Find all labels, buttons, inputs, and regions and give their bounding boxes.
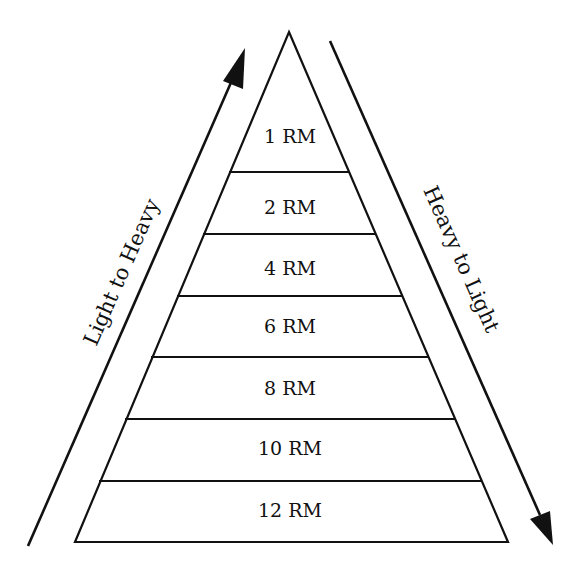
level-label-12rm: 12 RM [258,499,322,521]
right-arrow-label: Heavy to Light [419,182,505,336]
level-label-2rm: 2 RM [264,196,316,218]
level-label-10rm: 10 RM [258,437,322,459]
level-label-1rm: 1 RM [264,125,316,147]
level-label-8rm: 8 RM [264,377,316,399]
left-arrow-label: Light to Heavy [79,195,164,349]
pyramid-outline [75,32,508,542]
arrow-down-icon [330,41,553,545]
level-label-4rm: 4 RM [264,257,316,279]
rm-pyramid-diagram: 1 RM 2 RM 4 RM 6 RM 8 RM 10 RM 12 RM Lig… [0,0,579,572]
level-label-6rm: 6 RM [264,315,316,337]
